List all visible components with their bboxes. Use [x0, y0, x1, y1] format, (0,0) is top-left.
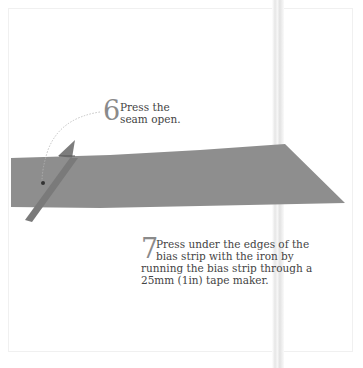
bias-strip-illustration [0, 0, 363, 368]
step-text-line: Press the [120, 101, 193, 113]
step-7: 7 Press under the edges of the bias stri… [141, 238, 281, 286]
step-number: 7 [141, 235, 158, 263]
step-6: 6 Press the seam open. [103, 101, 193, 125]
step-number: 6 [103, 97, 120, 125]
step-text-line: 25mm (1in) tape maker. [141, 274, 281, 286]
arrow-dot [41, 181, 45, 185]
step-text-line: Press under the edges of the [156, 238, 281, 250]
step-text-line: running the bias strip through a [141, 262, 281, 274]
step-text-line: bias strip with the iron by [156, 250, 281, 262]
seam-flap-top [58, 140, 75, 158]
step-text-line: seam open. [120, 113, 193, 125]
